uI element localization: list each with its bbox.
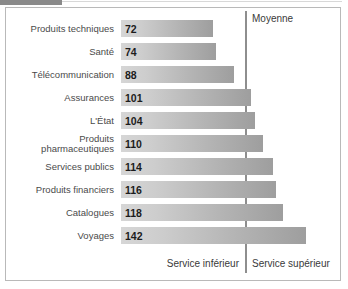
bar-value-label: 104 — [125, 115, 143, 126]
caption-service-superieur: Service supérieur — [252, 258, 330, 270]
category-label: Catalogues — [6, 207, 114, 218]
bar-shape — [121, 66, 234, 83]
bar-value-label: 142 — [125, 230, 143, 241]
category-label: Produits financiers — [6, 184, 114, 195]
bar-value-label: 88 — [125, 69, 137, 80]
bar-shape — [121, 227, 306, 244]
category-label: L'État — [6, 115, 114, 126]
top-crop-artifact — [0, 0, 62, 5]
bar-row: Voyages 142 — [6, 224, 340, 247]
bar-row: Produits financiers 116 — [6, 178, 340, 201]
bar-value-label: 74 — [125, 46, 137, 57]
bar-row: L'État 104 — [6, 109, 340, 132]
bar-value-label: 72 — [125, 23, 137, 34]
bar-shape — [121, 181, 276, 198]
bar-shape — [121, 204, 283, 221]
top-hairline-divider — [62, 1, 342, 2]
category-label: Télécommunication — [6, 69, 114, 80]
bar-row: Produits techniques 72 — [6, 17, 340, 40]
category-label: Produits pharmaceutiques — [6, 133, 114, 154]
category-label: Santé — [6, 46, 114, 57]
bar-row: Produits pharmaceutiques 110 — [6, 132, 340, 155]
caption-service-inferieur: Service inférieur — [167, 258, 239, 270]
bar-value-label: 110 — [125, 138, 142, 149]
category-label: Voyages — [6, 230, 114, 241]
bar-row: Assurances 101 — [6, 86, 340, 109]
category-label: Services publics — [6, 161, 114, 172]
bar-row: Santé 74 — [6, 40, 340, 63]
bar-value-label: 116 — [125, 184, 142, 195]
bar-shape — [121, 158, 273, 175]
category-label: Produits techniques — [6, 23, 114, 34]
axis-captions: Service inférieur Service supérieur — [6, 258, 340, 272]
bar-value-label: 118 — [125, 207, 142, 218]
bar-shape — [121, 135, 263, 152]
bar-row: Catalogues 118 — [6, 201, 340, 224]
category-label: Assurances — [6, 92, 114, 103]
bar-row: Services publics 114 — [6, 155, 340, 178]
bar-value-label: 101 — [125, 92, 143, 103]
bar-row: Télécommunication 88 — [6, 63, 340, 86]
chart-plot-area: Moyenne Produits techniques 72 Santé 74 … — [6, 8, 340, 280]
chart-figure-frame: Moyenne Produits techniques 72 Santé 74 … — [5, 7, 341, 281]
bar-value-label: 114 — [125, 161, 142, 172]
